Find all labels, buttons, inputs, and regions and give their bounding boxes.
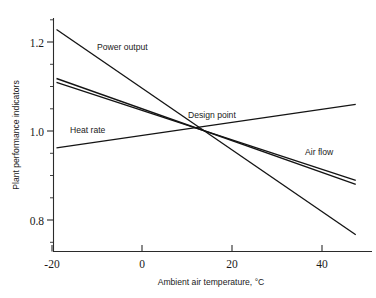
series-label-heat-rate: Heat rate	[70, 125, 106, 135]
x-tick-label-40: 40	[316, 258, 328, 270]
y-axis-title: Plant performance indicators	[11, 80, 21, 189]
series-label-power-output: Power output	[97, 42, 148, 52]
x-tick-label-20: 20	[226, 258, 238, 270]
series-label-air-flow: Air flow	[305, 147, 334, 157]
x-tick-label-0: 0	[139, 258, 145, 270]
caption-strip	[0, 288, 376, 298]
plant-performance-line-chart: 1.2 1.0 0.8 -20 0 20 40 Ambient air temp…	[0, 0, 376, 298]
x-tick-label--20: -20	[44, 258, 60, 270]
x-axis-title: Ambient air temperature, °C	[158, 277, 265, 287]
y-tick-label-1.0: 1.0	[30, 126, 45, 138]
y-tick-label-1.2: 1.2	[30, 37, 45, 49]
y-tick-label-0.8: 0.8	[30, 215, 45, 227]
chart-figure: 1.2 1.0 0.8 -20 0 20 40 Ambient air temp…	[0, 0, 376, 298]
design-point-annotation: Design point	[188, 110, 236, 120]
